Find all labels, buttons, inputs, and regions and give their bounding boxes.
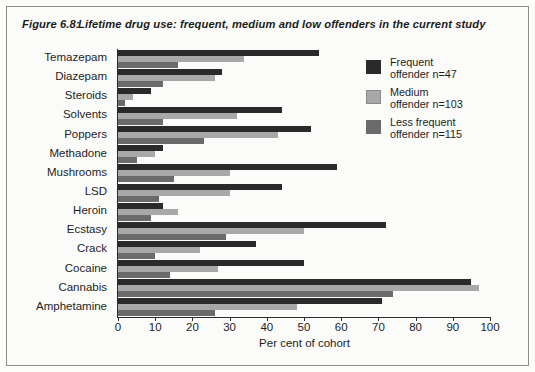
x-tick-label: 50: [298, 321, 311, 333]
figure-title: Figure 6.8:Lifetime drug use: frequent, …: [22, 18, 517, 30]
x-tick-label: 30: [223, 321, 236, 333]
y-axis-label: Ecstasy: [67, 223, 107, 235]
y-axis-label: Diazepam: [55, 70, 107, 82]
y-axis-label: Crack: [77, 242, 107, 254]
bar: [118, 138, 204, 144]
x-tick-label: 10: [149, 321, 162, 333]
bar-group: [118, 145, 490, 163]
x-tick-label: 20: [186, 321, 199, 333]
y-axis-label: Solvents: [63, 108, 107, 120]
bar: [118, 81, 163, 87]
legend-swatch: [366, 60, 381, 74]
x-tick-label: 100: [480, 321, 499, 333]
y-axis-label: Amphetamine: [36, 300, 107, 312]
x-tick-label: 60: [335, 321, 348, 333]
bar-group: [118, 260, 490, 278]
y-axis-label: Cocaine: [65, 262, 107, 274]
bar: [118, 253, 155, 259]
bar-group: [118, 222, 490, 240]
y-axis-label: Temazepam: [44, 51, 107, 63]
legend-swatch: [366, 120, 381, 134]
bar: [118, 234, 226, 240]
bar: [118, 62, 178, 68]
legend-label: Less frequent offender n=115: [390, 116, 462, 141]
x-tick-label: 90: [446, 321, 459, 333]
bar: [118, 119, 163, 125]
x-tick-label: 70: [372, 321, 385, 333]
y-axis-label: Poppers: [64, 128, 107, 140]
bar-group: [118, 184, 490, 202]
bar-group: [118, 279, 490, 297]
bar-group: [118, 203, 490, 221]
legend-entry: Less frequent offender n=115: [366, 117, 506, 145]
x-axis-title: Per cent of cohort: [118, 337, 491, 349]
y-axis-label: Heroin: [73, 204, 107, 216]
legend-label: Medium offender n=103: [390, 86, 463, 111]
y-axis-label: Mushrooms: [47, 166, 107, 178]
y-axis-label: Methadone: [49, 147, 107, 159]
bar: [118, 272, 170, 278]
bar: [118, 157, 137, 163]
bar: [118, 310, 215, 316]
x-tick-label: 0: [115, 321, 121, 333]
bar: [118, 291, 393, 297]
bar: [118, 100, 125, 106]
y-axis-label: LSD: [85, 185, 107, 197]
y-axis-category-labels: TemazepamDiazepamSteroidsSolventsPoppers…: [0, 49, 113, 317]
bar: [118, 176, 174, 182]
legend-entry: Medium offender n=103: [366, 87, 506, 115]
y-axis-label: Steroids: [65, 89, 107, 101]
x-tick-label: 80: [409, 321, 422, 333]
x-tick-label: 40: [260, 321, 273, 333]
figure-container: Figure 6.8:Lifetime drug use: frequent, …: [0, 0, 535, 372]
legend-label: Frequent offender n=47: [390, 56, 457, 81]
legend-entry: Frequent offender n=47: [366, 57, 506, 85]
bar: [118, 196, 159, 202]
bar: [118, 215, 151, 221]
bar-group: [118, 164, 490, 182]
figure-number: Figure 6.8:: [22, 18, 78, 30]
legend-swatch: [366, 90, 381, 104]
bar-group: [118, 241, 490, 259]
chart-legend: Frequent offender n=47Medium offender n=…: [366, 57, 506, 147]
figure-title-text: Lifetime drug use: frequent, medium and …: [78, 18, 486, 30]
bar-group: [118, 298, 490, 316]
y-axis-label: Cannabis: [58, 281, 107, 293]
